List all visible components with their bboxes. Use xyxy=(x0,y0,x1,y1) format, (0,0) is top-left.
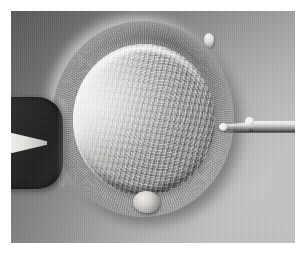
figure-page xyxy=(0,0,301,259)
injection-pipette-bead-highlight xyxy=(245,117,254,126)
debris-particle xyxy=(204,33,214,48)
polar-body xyxy=(133,191,160,213)
micrograph-plate xyxy=(11,11,295,243)
ooplasm-granular-texture xyxy=(73,44,215,196)
injection-pipette-shaft xyxy=(249,121,295,132)
injection-pipette-tip xyxy=(219,123,228,131)
figure-caption xyxy=(0,0,1,1)
